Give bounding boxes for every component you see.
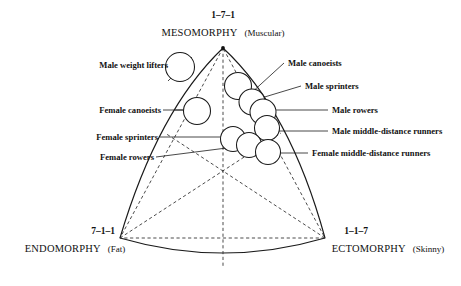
label-female-middle-distance-runners[interactable]: Female middle-distance runners bbox=[312, 148, 431, 158]
endomorphy-code: 7–1–1 bbox=[91, 226, 115, 236]
ectomorphy-descriptor: (Skinny) bbox=[413, 244, 445, 254]
mesomorphy-name: MESOMORPHY bbox=[161, 27, 237, 38]
endomorphy-name: ENDOMORPHY bbox=[25, 243, 101, 254]
ectomorphy-name: ECTOMORPHY bbox=[332, 243, 406, 254]
label-male-middle-distance-runners[interactable]: Male middle-distance runners bbox=[332, 126, 443, 136]
label-female-rowers[interactable]: Female rowers bbox=[100, 152, 155, 162]
somatochart-canvas: 1–7–1 MESOMORPHY (Muscular) 7–1–1 ENDOMO… bbox=[0, 0, 461, 286]
label-male-rowers[interactable]: Male rowers bbox=[332, 105, 379, 115]
mesomorphy-descriptor: (Muscular) bbox=[245, 28, 285, 38]
endomorphy-label-group: ENDOMORPHY (Fat) bbox=[25, 238, 126, 255]
label-female-canoeists[interactable]: Female canoeists bbox=[99, 105, 161, 115]
endomorphy-descriptor: (Fat) bbox=[108, 244, 126, 254]
label-male-canoeists[interactable]: Male canoeists bbox=[288, 58, 342, 68]
somatotype-chart: 1–7–1 MESOMORPHY (Muscular) 7–1–1 ENDOMO… bbox=[0, 0, 461, 286]
label-male-weight-lifters[interactable]: Male weight lifters bbox=[99, 60, 168, 70]
label-female-sprinters[interactable]: Female sprinters bbox=[96, 132, 158, 142]
apex-vertex-dot bbox=[221, 46, 225, 50]
label-male-sprinters[interactable]: Male sprinters bbox=[305, 81, 359, 91]
mesomorphy-code: 1–7–1 bbox=[211, 10, 235, 20]
point-male-weight-lifters[interactable] bbox=[166, 53, 195, 82]
mesomorphy-label-group: MESOMORPHY (Muscular) bbox=[161, 22, 284, 39]
point-female-canoeists[interactable] bbox=[184, 98, 211, 125]
point-female-middle-distance-runners[interactable] bbox=[256, 140, 281, 165]
ectomorphy-label-group: ECTOMORPHY (Skinny) bbox=[332, 238, 445, 255]
somatochart-boundary bbox=[120, 48, 325, 253]
ectomorphy-code: 1–1–7 bbox=[344, 226, 368, 236]
